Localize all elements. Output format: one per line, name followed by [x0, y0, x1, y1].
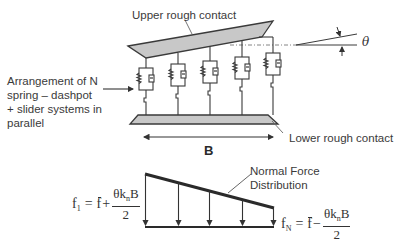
- formula-fN-fraction: θknB 2: [323, 206, 350, 242]
- arrangement-line-4: parallel: [7, 116, 127, 130]
- arrangement-line-3: + slider systems in: [7, 102, 127, 116]
- upper-contact-label: Upper rough contact: [132, 8, 236, 22]
- arrangement-label: Arrangement of N spring – dashpot + slid…: [7, 74, 127, 130]
- formula-fN-equals: =: [295, 216, 303, 232]
- element-rods: [146, 90, 273, 115]
- arrangement-line-1: Arrangement of N: [7, 74, 127, 88]
- arrangement-line-2: spring – dashpot: [7, 88, 127, 102]
- normal-force-label: Normal Force Distribution: [250, 164, 320, 192]
- formula-f1: f1 = f + θknB 2: [72, 186, 140, 222]
- normal-force-leader: [228, 174, 251, 193]
- formula-f1-fraction: θknB 2: [112, 186, 139, 222]
- formula-f1-operator: +: [102, 196, 110, 212]
- spring-dashpot-unit-4: [233, 57, 250, 94]
- normal-force-line-2: Distribution: [250, 178, 320, 192]
- formula-f1-mean: f: [97, 196, 102, 212]
- spring-dashpot-unit-2: [169, 64, 186, 101]
- angle-label: θ: [362, 35, 369, 49]
- angle-arrow-top: [337, 27, 340, 36]
- lower-plate: [130, 115, 278, 124]
- upper-plate: [128, 21, 273, 58]
- formula-f1-lhs: f1: [72, 196, 81, 213]
- formula-f1-equals: =: [85, 196, 93, 212]
- spring-dashpot-unit-1: [137, 68, 154, 105]
- upper-contact-leader: [185, 20, 192, 34]
- lower-contact-label: Lower rough contact: [289, 131, 393, 145]
- formula-fN-operator: −: [313, 216, 321, 232]
- formula-fN-mean: f: [307, 216, 312, 232]
- spring-dashpot-unit-3: [201, 61, 218, 98]
- spring-dashpot-unit-5: [264, 53, 281, 90]
- formula-fN-lhs: fN: [281, 216, 291, 233]
- normal-force-line-1: Normal Force: [250, 164, 320, 178]
- angle-inclined-line: [296, 34, 357, 45]
- width-label: B: [204, 143, 213, 158]
- formula-fN: fN = f − θknB 2: [281, 206, 350, 242]
